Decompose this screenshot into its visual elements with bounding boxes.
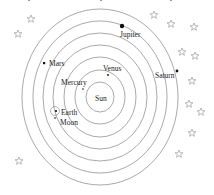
diagram-canvas: Sun Mercury Venus Earth Moon Mars Jupite… <box>0 0 214 195</box>
star-icon <box>175 150 183 157</box>
star-icon <box>178 48 186 55</box>
jupiter-label: Jupiter <box>120 30 141 39</box>
star-icon <box>27 15 35 22</box>
star-icon <box>150 11 158 18</box>
star-icon <box>15 157 23 164</box>
star-icon <box>14 30 22 37</box>
mercury-dot <box>82 88 84 90</box>
star-icon <box>185 100 193 107</box>
earth-label: Earth <box>61 108 77 117</box>
sun-label: Sun <box>95 94 107 103</box>
cropped-caption <box>28 0 172 1</box>
moon-dot <box>54 117 56 119</box>
jupiter-dot <box>120 24 124 28</box>
saturn-label: Saturn <box>155 71 175 80</box>
saturn-dot <box>176 70 179 73</box>
moon-label: Moon <box>60 118 78 127</box>
earth-dot <box>55 110 57 112</box>
star-icon <box>167 20 175 27</box>
mercury-label: Mercury <box>61 78 87 87</box>
venus-dot <box>107 74 109 76</box>
star-icon <box>197 108 205 115</box>
star-icon <box>191 52 199 59</box>
star-icon <box>190 23 198 30</box>
planets: Sun Mercury Venus Earth Moon Mars Jupite… <box>43 24 178 127</box>
star-icon <box>188 129 196 136</box>
star-icon <box>188 77 196 84</box>
venus-label: Venus <box>103 64 121 73</box>
solar-system-diagram: Sun Mercury Venus Earth Moon Mars Jupite… <box>0 0 214 195</box>
mars-dot <box>43 62 45 64</box>
mars-label: Mars <box>49 59 64 68</box>
